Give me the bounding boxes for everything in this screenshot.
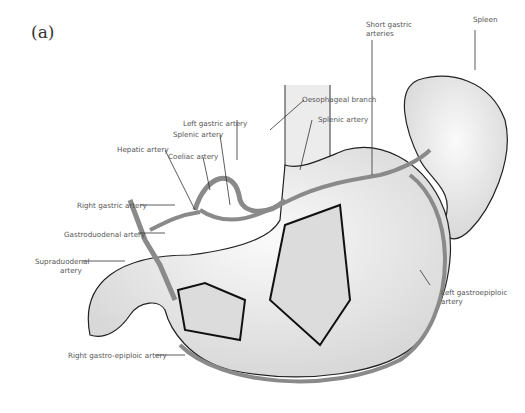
right-gastric-vessel [150, 212, 200, 230]
label-supraduodenal: Supraduodenal [35, 257, 90, 266]
stomach [88, 147, 450, 376]
label-oesophageal-branch: Oesophageal branch [302, 95, 376, 104]
label-spleen: Spleen [473, 15, 498, 24]
label-supraduodenal-2: artery [60, 266, 82, 275]
label-right-gastroepiploic: Right gastro-epiploic artery [68, 351, 167, 360]
label-short-gastric-2: arteries [366, 29, 394, 38]
label-left-gastric-artery: Left gastric artery [183, 119, 247, 128]
label-splenic-artery-right: Splenic artery [318, 115, 368, 124]
label-gastroduodenal-artery: Gastroduodenal artery [64, 230, 145, 239]
label-hepatic-artery: Hepatic artery [117, 145, 169, 154]
label-splenic-artery-left: Splenic artery [173, 130, 223, 139]
label-short-gastric: Short gastric [366, 20, 412, 29]
label-right-gastric-artery: Right gastric artery [77, 201, 147, 210]
label-left-gastroepiploic-2: artery [441, 297, 463, 306]
label-left-gastroepiploic: Left gastroepiploic [441, 288, 507, 297]
label-coeliac-artery: Coeliac artery [168, 152, 218, 161]
